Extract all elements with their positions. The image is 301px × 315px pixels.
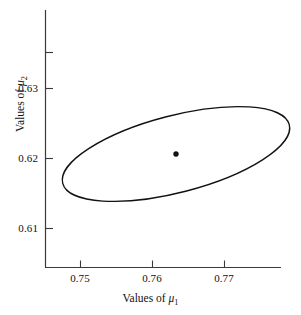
y-axis-title-wrap: Values of μ2	[10, 44, 26, 164]
chart-figure: 0.63 0.62 0.61 0.75 0.76 0.77 Values of …	[0, 0, 301, 315]
y-axis-title-words: Values of	[14, 89, 26, 132]
mu-glyph-y: μ	[14, 80, 26, 86]
x-tick-label-0-77: 0.77	[204, 272, 244, 284]
mu-subscript-y: 2	[20, 76, 29, 80]
y-tick-label-0-61: 0.61	[4, 222, 38, 234]
x-axis-title-words: Values of	[123, 292, 166, 304]
x-axis-title-symbol: μ1	[169, 292, 179, 304]
confidence-ellipse-plot	[0, 0, 301, 315]
point-estimate-marker	[173, 151, 178, 156]
y-axis-title: Values of μ2	[14, 76, 29, 132]
y-axis-title-symbol: μ2	[14, 76, 26, 86]
x-tick-label-0-75: 0.75	[60, 272, 100, 284]
mu-subscript-x: 1	[174, 298, 178, 307]
x-tick-label-0-76: 0.76	[132, 272, 172, 284]
x-axis-title: Values of μ1	[0, 292, 301, 307]
